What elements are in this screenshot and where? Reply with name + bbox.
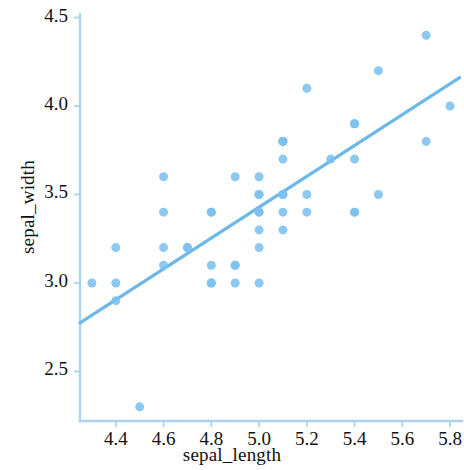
data-points	[87, 31, 454, 412]
data-point	[255, 172, 264, 181]
data-point	[255, 190, 264, 199]
tick-marks	[74, 18, 450, 427]
data-point	[111, 278, 120, 287]
plot-canvas	[0, 0, 464, 470]
data-point	[159, 261, 168, 270]
regression-line	[80, 78, 460, 323]
data-point	[302, 84, 311, 93]
y-tick-label: 4.5	[20, 5, 68, 27]
data-point	[302, 190, 311, 199]
data-point	[278, 225, 287, 234]
data-point	[159, 208, 168, 217]
data-point	[207, 278, 216, 287]
data-point	[446, 102, 455, 111]
regression-line-path	[80, 78, 460, 323]
data-point	[231, 172, 240, 181]
data-point	[255, 225, 264, 234]
data-point	[422, 137, 431, 146]
data-point	[326, 155, 335, 164]
y-axis-label-wrapper: sepal_width	[17, 107, 39, 307]
scatter-plot-figure: 4.44.64.85.05.25.45.65.8 2.53.03.54.04.5…	[0, 0, 464, 470]
x-axis-label: sepal_length	[0, 444, 464, 466]
y-tick-label: 2.5	[20, 358, 68, 380]
data-point	[350, 155, 359, 164]
data-point	[255, 278, 264, 287]
data-point	[278, 190, 287, 199]
data-point	[278, 155, 287, 164]
data-point	[278, 208, 287, 217]
data-point	[278, 137, 287, 146]
data-point	[111, 243, 120, 252]
data-point	[231, 261, 240, 270]
data-point	[350, 119, 359, 128]
data-point	[207, 261, 216, 270]
data-point	[159, 172, 168, 181]
data-point	[350, 208, 359, 217]
data-point	[255, 243, 264, 252]
data-point	[374, 190, 383, 199]
y-axis-label: sepal_width	[17, 160, 39, 254]
data-point	[302, 208, 311, 217]
data-point	[183, 243, 192, 252]
data-point	[159, 243, 168, 252]
data-point	[111, 296, 120, 305]
data-point	[207, 208, 216, 217]
data-point	[374, 66, 383, 75]
data-point	[135, 402, 144, 411]
data-point	[231, 278, 240, 287]
data-point	[255, 208, 264, 217]
data-point	[87, 278, 96, 287]
data-point	[422, 31, 431, 40]
